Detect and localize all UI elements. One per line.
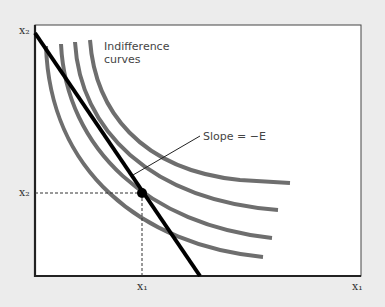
tangency-point	[137, 188, 147, 198]
diagram-canvas	[0, 0, 385, 307]
y-axis-label: x₂	[19, 24, 30, 37]
x-axis-label: x₁	[352, 280, 363, 293]
curve-label-line1: Indifference	[104, 40, 169, 53]
x-tick-label: x₁	[137, 280, 148, 293]
slope-label: Slope = −E	[203, 130, 266, 143]
y-tick-label: x₂	[19, 186, 30, 199]
curve-label-line2: curves	[104, 53, 169, 66]
indifference-curves-label: Indifference curves	[104, 40, 169, 66]
plot-frame	[35, 25, 361, 276]
